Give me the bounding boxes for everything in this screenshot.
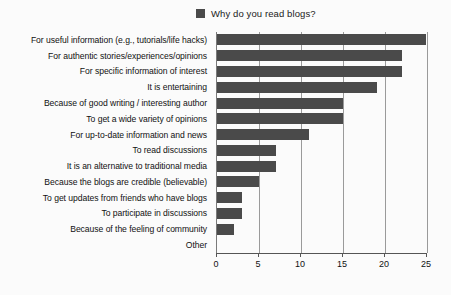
bar[interactable]: [217, 34, 426, 45]
bar[interactable]: [217, 113, 343, 124]
bar[interactable]: [217, 192, 242, 203]
tick-mark: [258, 253, 259, 257]
bar-row: [217, 64, 426, 80]
category-label: Because the blogs are credible (believab…: [0, 174, 212, 190]
bar[interactable]: [217, 161, 276, 172]
tick-label: 10: [295, 259, 305, 269]
category-axis-labels: For useful information (e.g., tutorials/…: [0, 32, 212, 253]
tick-label: 25: [421, 259, 431, 269]
bar[interactable]: [217, 208, 242, 219]
tick-mark: [426, 253, 427, 257]
bar-row: [217, 158, 426, 174]
tick-mark: [300, 253, 301, 257]
category-label: Other: [0, 237, 212, 253]
category-label: For authentic stories/experiences/opinio…: [0, 48, 212, 64]
category-label: To participate in discussions: [0, 206, 212, 222]
bar-row: [217, 111, 426, 127]
bar[interactable]: [217, 129, 309, 140]
category-label: For useful information (e.g., tutorials/…: [0, 32, 212, 48]
bar-row: [217, 190, 426, 206]
bar[interactable]: [217, 224, 234, 235]
x-axis-ticks: 0510152025: [216, 253, 426, 277]
tick-label: 5: [255, 259, 260, 269]
bar[interactable]: [217, 98, 343, 109]
bars-group: [217, 32, 426, 253]
bar-row: [217, 127, 426, 143]
bar-row: [217, 32, 426, 48]
bar-row: [217, 95, 426, 111]
category-label: It is entertaining: [0, 79, 212, 95]
bar-chart: For useful information (e.g., tutorials/…: [0, 0, 451, 295]
bar-row: [217, 206, 426, 222]
gridline: [427, 32, 428, 253]
bar-row: [217, 237, 426, 253]
category-label: Because of good writing / interesting au…: [0, 95, 212, 111]
tick-label: 0: [213, 259, 218, 269]
bar-row: [217, 221, 426, 237]
tick-mark: [384, 253, 385, 257]
bar-row: [217, 79, 426, 95]
bar[interactable]: [217, 82, 377, 93]
tick-label: 20: [379, 259, 389, 269]
tick-mark: [216, 253, 217, 257]
bar[interactable]: [217, 176, 259, 187]
category-label: To get updates from friends who have blo…: [0, 190, 212, 206]
bar-row: [217, 142, 426, 158]
category-label: It is an alternative to traditional medi…: [0, 158, 212, 174]
category-label: To get a wide variety of opinions: [0, 111, 212, 127]
bar-row: [217, 48, 426, 64]
tick-label: 15: [337, 259, 347, 269]
category-label: Because of the feeling of community: [0, 221, 212, 237]
chart-container: Why do you read blogs? For useful inform…: [0, 0, 451, 295]
category-label: To read discussions: [0, 142, 212, 158]
bar[interactable]: [217, 50, 402, 61]
tick-mark: [342, 253, 343, 257]
category-label: For up-to-date information and news: [0, 127, 212, 143]
plot-area: [216, 32, 426, 253]
bar-row: [217, 174, 426, 190]
bar[interactable]: [217, 145, 276, 156]
category-label: For specific information of interest: [0, 64, 212, 80]
bar[interactable]: [217, 66, 402, 77]
